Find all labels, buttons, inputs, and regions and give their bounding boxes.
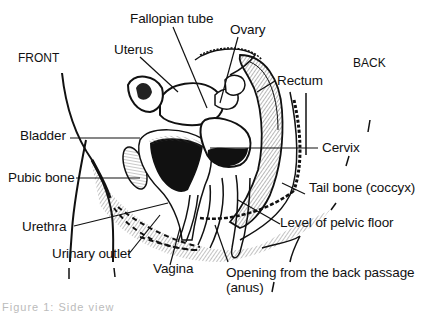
bladder — [139, 130, 212, 240]
front-body-outline — [62, 73, 113, 262]
figure-caption: Figure 1: Side view — [2, 301, 115, 313]
label-anus-line2: (anus) — [226, 280, 264, 295]
label-urethra: Urethra — [22, 219, 66, 234]
label-bladder: Bladder — [20, 128, 66, 143]
label-anus-line1: Opening from the back passage — [226, 265, 414, 280]
label-cervix: Cervix — [322, 140, 360, 155]
label-front: FRONT — [18, 51, 59, 66]
label-fallopian-tube: Fallopian tube — [130, 11, 213, 26]
label-vagina: Vagina — [153, 261, 193, 276]
label-pubic-bone: Pubic bone — [8, 170, 75, 185]
label-tail-bone: Tail bone (coccyx) — [309, 180, 415, 195]
label-ovary: Ovary — [230, 22, 266, 37]
label-level-pelvic-floor: Level of pelvic floor — [280, 215, 393, 230]
label-rectum: Rectum — [277, 73, 323, 88]
label-back: BACK — [353, 56, 386, 71]
label-urinary-outlet: Urinary outlet — [52, 246, 131, 261]
label-uterus: Uterus — [114, 42, 153, 57]
